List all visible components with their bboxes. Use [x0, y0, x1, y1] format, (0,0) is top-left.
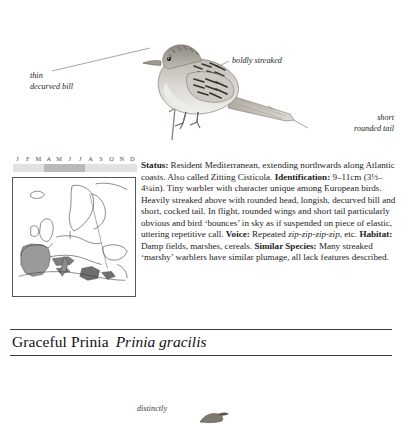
callout-thin-decurved-bill: thin decurved bill: [30, 71, 73, 92]
callout-short-rounded-tail-line1: short: [310, 113, 394, 124]
similar-species-label: Similar Species:: [254, 241, 316, 251]
presence-cell: [75, 164, 85, 172]
presence-bar: [13, 164, 137, 172]
callout-thin-decurved-bill-line1: thin: [30, 71, 73, 82]
month-label: D: [128, 155, 137, 162]
callout-thin-decurved-bill-line2: decurved bill: [30, 82, 73, 93]
bird-illustration: [128, 22, 318, 140]
month-label: J: [13, 155, 22, 162]
presence-cell: [85, 164, 95, 172]
next-entry-fragment: distinctly: [0, 392, 402, 424]
presence-cell: [127, 164, 137, 172]
next-callout-distinctly: distinctly: [137, 404, 167, 413]
description-column: Status: Resident Mediterranean, extendin…: [141, 160, 396, 264]
voice-call: zip-zip-zip-zip: [288, 229, 340, 239]
month-label: J: [76, 155, 85, 162]
month-label: M: [34, 155, 43, 162]
presence-cell: [13, 164, 23, 172]
month-labels: J F M A M J J A S O N D: [13, 155, 137, 162]
presence-cell: [96, 164, 106, 172]
callout-short-rounded-tail-line2: rounded tail: [310, 124, 394, 135]
voice-text-before: Repeated: [250, 229, 288, 239]
habitat-text: Damp fields, marshes, cereals.: [141, 241, 252, 251]
voice-text-after: , etc.: [340, 229, 357, 239]
callout-short-rounded-tail: short rounded tail: [310, 113, 394, 134]
month-label: N: [118, 155, 127, 162]
presence-cell: [44, 164, 54, 172]
illustration-block: thin decurved bill boldly streaked short…: [0, 0, 402, 150]
voice-label: Voice:: [226, 229, 250, 239]
species-scientific-name: Prinia gracilis: [116, 333, 207, 350]
presence-cell: [116, 164, 126, 172]
map-column: J F M A M J J A S O N D: [12, 155, 138, 301]
month-label: O: [107, 155, 116, 162]
presence-cell: [23, 164, 33, 172]
habitat-label: Habitat:: [359, 229, 392, 239]
europe-distribution-map: [12, 177, 136, 297]
month-label: A: [86, 155, 95, 162]
presence-cell: [65, 164, 75, 172]
callout-boldly-streaked: boldly streaked: [232, 56, 282, 67]
month-label: A: [44, 155, 53, 162]
description-paragraph: Status: Resident Mediterranean, extendin…: [141, 160, 396, 264]
callout-boldly-streaked-line1: boldly streaked: [232, 56, 282, 67]
month-label: F: [23, 155, 32, 162]
species-common-name: Graceful Prinia: [12, 333, 109, 350]
presence-cell: [34, 164, 44, 172]
species-heading: Graceful PriniaPrinia gracilis: [10, 329, 392, 356]
next-bird-illustration-fragment: [196, 408, 230, 424]
month-label: M: [55, 155, 64, 162]
month-label: S: [97, 155, 106, 162]
month-label: J: [65, 155, 74, 162]
identification-label: Identification:: [275, 172, 331, 182]
presence-cell: [106, 164, 116, 172]
status-label: Status:: [141, 160, 168, 170]
presence-cell: [54, 164, 64, 172]
